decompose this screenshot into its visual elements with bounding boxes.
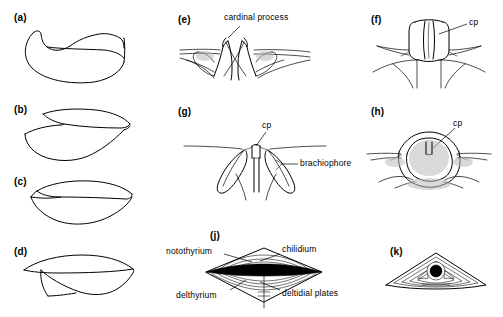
panel-k-drawing xyxy=(370,240,503,317)
panel-b-drawing xyxy=(0,96,170,168)
panel-d-drawing xyxy=(0,236,170,317)
panel-f: (f) cp xyxy=(355,0,503,96)
panel-e: (e) cardinal process xyxy=(170,0,355,96)
panel-b: (b) xyxy=(0,96,170,168)
panel-a-drawing xyxy=(0,0,170,96)
panel-k: (k) xyxy=(370,240,503,317)
panel-g-drawing xyxy=(170,96,355,214)
panel-f-drawing xyxy=(355,0,503,96)
panel-d: (d) xyxy=(0,236,170,317)
panel-j: (j) notothyrium chilidium delthyrium del… xyxy=(160,228,370,317)
panel-c: (c) xyxy=(0,168,170,236)
panel-a: (a) xyxy=(0,0,170,96)
panel-h: (h) cp xyxy=(355,96,503,214)
panel-g: (g) cp brachiophore xyxy=(170,96,355,214)
panel-j-drawing xyxy=(160,228,370,317)
brachiopod-morphology-figure: (a) (b) (c) (d) xyxy=(0,0,503,317)
panel-e-drawing xyxy=(170,0,355,96)
panel-c-drawing xyxy=(0,168,170,236)
panel-h-drawing xyxy=(355,96,503,214)
